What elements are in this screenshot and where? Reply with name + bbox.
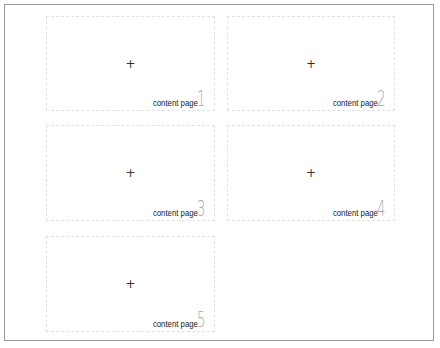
- content-page-5[interactable]: + content page 5: [46, 236, 215, 332]
- content-page-1[interactable]: + content page 1: [46, 16, 215, 111]
- page-number: 4: [377, 200, 385, 219]
- content-page-3[interactable]: + content page 3: [46, 125, 215, 221]
- content-page-4[interactable]: + content page 4: [227, 125, 395, 221]
- content-page-2[interactable]: + content page 2: [227, 16, 395, 111]
- plus-icon[interactable]: +: [125, 58, 135, 70]
- page-caption: content page 3: [143, 200, 211, 219]
- plus-icon[interactable]: +: [306, 167, 316, 179]
- plus-icon[interactable]: +: [306, 58, 316, 70]
- page-caption: content page 2: [323, 90, 391, 109]
- plus-icon[interactable]: +: [125, 167, 135, 179]
- page-caption: content page 5: [143, 311, 211, 330]
- page-label: content page: [153, 98, 198, 110]
- page-number: 1: [197, 90, 205, 109]
- page-caption: content page 4: [323, 200, 391, 219]
- page-number: 2: [377, 90, 385, 109]
- page-label: content page: [153, 319, 198, 331]
- page-label: content page: [153, 208, 198, 220]
- page-number: 5: [197, 311, 205, 330]
- page-caption: content page 1: [143, 90, 211, 109]
- page-label: content page: [333, 98, 378, 110]
- page-label: content page: [333, 208, 378, 220]
- page-number: 3: [197, 200, 205, 219]
- plus-icon[interactable]: +: [125, 278, 135, 290]
